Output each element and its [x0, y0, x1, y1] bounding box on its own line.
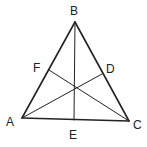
side-bc: [75, 22, 129, 121]
label-f: F: [33, 62, 40, 74]
label-d: D: [106, 63, 115, 75]
side-ca: [22, 118, 129, 121]
label-e: E: [69, 129, 77, 141]
segment-cf: [49, 70, 129, 121]
triangle-diagram: [0, 0, 147, 147]
label-c: C: [133, 119, 142, 131]
label-a: A: [6, 116, 14, 128]
label-b: B: [70, 5, 78, 17]
segment-be: [74, 22, 75, 120]
